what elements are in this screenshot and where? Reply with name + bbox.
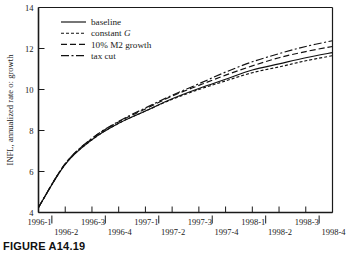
y-axis-title: INFL, annualized rate oː growth	[5, 54, 15, 166]
x-tick-label: 1998-1	[241, 217, 265, 227]
x-tick-label: 1996-3	[81, 217, 105, 227]
x-axis-labels-bottom-row: 1996-21996-41997-21997-41998-21998-4	[54, 227, 346, 237]
x-tick-label: 1996-4	[108, 227, 133, 237]
y-tick-label: 12	[25, 44, 34, 54]
x-tick-label: 1997-1	[134, 217, 158, 227]
plot-frame	[39, 8, 333, 213]
legend-label: constant G	[91, 28, 131, 38]
x-tick-label: 1998-3	[295, 217, 319, 227]
legend-label: baseline	[91, 17, 121, 27]
legend-label: 10% M2 growth	[91, 40, 152, 50]
x-tick-label: 1998-4	[321, 227, 346, 237]
series-line-tax-cut	[39, 41, 333, 208]
series-line-10-m2-growth	[39, 46, 333, 207]
x-tick-label: 1996-1	[27, 217, 51, 227]
x-tick-label: 1997-4	[215, 227, 240, 237]
x-tick-label: 1996-2	[54, 227, 78, 237]
figure-caption: FIGURE A14.19	[3, 240, 85, 252]
inflation-line-chart: 468101214 1996-11996-31997-11997-31998-1…	[0, 0, 349, 258]
series-line-constant-g	[39, 56, 333, 208]
x-axis-labels-top-row: 1996-11996-31997-11997-31998-11998-3	[27, 217, 318, 227]
x-tick-label: 1997-2	[161, 227, 185, 237]
y-tick-label: 6	[29, 167, 33, 177]
legend-label: tax cut	[91, 51, 116, 61]
chart-legend: baselineconstant G10% M2 growthtax cut	[61, 17, 152, 61]
y-axis-ticks: 468101214	[25, 3, 45, 218]
x-tick-label: 1997-3	[188, 217, 212, 227]
series-lines	[39, 41, 333, 208]
y-tick-label: 8	[29, 126, 33, 136]
y-tick-label: 10	[25, 85, 34, 95]
figure-container: 468101214 1996-11996-31997-11997-31998-1…	[0, 0, 349, 258]
x-tick-label: 1998-2	[268, 227, 292, 237]
y-tick-label: 14	[25, 3, 34, 13]
series-line-baseline	[39, 53, 333, 208]
